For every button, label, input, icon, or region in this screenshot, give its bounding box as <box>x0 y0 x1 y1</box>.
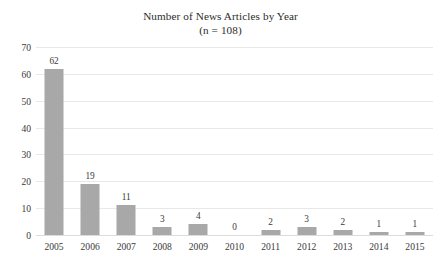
x-axis-tick-label: 2012 <box>297 241 316 252</box>
y-axis-tick-label: 40 <box>1 122 31 133</box>
bar-slot: 3 <box>144 47 180 235</box>
bar-value-label: 19 <box>85 171 94 181</box>
bar-slot: 19 <box>72 47 108 235</box>
bar-value-label: 2 <box>340 217 345 227</box>
bar-value-label: 1 <box>377 219 382 229</box>
x-axis-tick-label: 2008 <box>153 241 172 252</box>
y-axis-tick-label: 70 <box>1 42 31 53</box>
chart-subtitle: (n = 108) <box>0 23 441 37</box>
x-axis-tick-label: 2006 <box>81 241 100 252</box>
bar-slot: 2 <box>325 47 361 235</box>
bar-2011[interactable] <box>261 230 280 235</box>
x-axis-tick-label: 2005 <box>44 241 63 252</box>
bar-value-label: 62 <box>49 56 58 66</box>
bar-slot: 3 <box>289 47 325 235</box>
plot-area: 010203040506070 62191134023211 <box>36 47 433 235</box>
x-axis-tick-label: 2011 <box>261 241 280 252</box>
x-axis-tick-label: 2010 <box>225 241 244 252</box>
bar-slot: 11 <box>108 47 144 235</box>
y-axis-tick-label: 50 <box>1 95 31 106</box>
y-axis-tick-label: 60 <box>1 68 31 79</box>
bar-2009[interactable] <box>189 224 208 235</box>
bar-2015[interactable] <box>405 232 424 235</box>
bar-value-label: 3 <box>160 214 165 224</box>
bar-value-label: 0 <box>232 222 237 232</box>
bar-slot: 0 <box>216 47 252 235</box>
gridline-0 <box>36 235 433 236</box>
chart-title-block: Number of News Articles by Year (n = 108… <box>0 9 441 37</box>
y-axis-tick-label: 10 <box>1 203 31 214</box>
x-axis: 2005200620072008200920102011201220132014… <box>36 241 433 261</box>
bar-slot: 4 <box>180 47 216 235</box>
y-axis-tick-label: 20 <box>1 176 31 187</box>
y-axis-tick-label: 0 <box>1 230 31 241</box>
bar-2012[interactable] <box>297 227 316 235</box>
bar-2014[interactable] <box>369 232 388 235</box>
page-title: Number of News Articles by Year <box>0 9 441 23</box>
x-axis-tick-label: 2007 <box>117 241 136 252</box>
bar-value-label: 3 <box>304 214 309 224</box>
chart-figure: Number of News Articles by Year (n = 108… <box>0 0 441 274</box>
bar-slot: 62 <box>36 47 72 235</box>
bar-2008[interactable] <box>153 227 172 235</box>
bar-value-label: 4 <box>196 211 201 221</box>
y-axis-tick-label: 30 <box>1 149 31 160</box>
bar-2005[interactable] <box>45 69 64 236</box>
bar-2013[interactable] <box>333 230 352 235</box>
bar-2007[interactable] <box>117 205 136 235</box>
bar-slot: 1 <box>361 47 397 235</box>
bar-value-label: 2 <box>268 217 273 227</box>
x-axis-tick-label: 2013 <box>333 241 352 252</box>
bar-series: 62191134023211 <box>36 47 433 235</box>
bar-value-label: 11 <box>122 192 131 202</box>
bar-2006[interactable] <box>81 184 100 235</box>
x-axis-tick-label: 2015 <box>405 241 424 252</box>
bar-slot: 2 <box>253 47 289 235</box>
bar-slot: 1 <box>397 47 433 235</box>
bar-value-label: 1 <box>413 219 418 229</box>
x-axis-tick-label: 2014 <box>369 241 388 252</box>
x-axis-tick-label: 2009 <box>189 241 208 252</box>
